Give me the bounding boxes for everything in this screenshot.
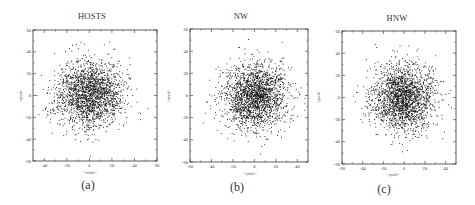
svg-text:-40: -40 — [360, 166, 367, 171]
svg-text:0: 0 — [88, 163, 91, 168]
svg-text:20: 20 — [335, 73, 340, 78]
svg-text:60: 60 — [335, 29, 340, 34]
panel-nw: NW -60-40-2002040-60-40-200204060 <xtalt… — [160, 0, 320, 205]
data-points — [203, 39, 306, 155]
y-axis-label: <ytalt> — [18, 89, 23, 102]
x-axis-label: <xtalt> — [83, 170, 96, 175]
svg-text:20: 20 — [26, 71, 31, 76]
svg-text:0: 0 — [29, 93, 32, 98]
svg-text:20: 20 — [423, 166, 428, 171]
y-axis-label: <xtalt> — [166, 89, 171, 102]
svg-text:-20: -20 — [230, 164, 237, 169]
svg-text:-60: -60 — [182, 160, 189, 165]
svg-text:60: 60 — [26, 28, 31, 33]
data-points — [353, 44, 452, 152]
svg-text:-20: -20 — [182, 115, 189, 120]
svg-text:-60: -60 — [339, 166, 346, 171]
svg-text:20: 20 — [183, 71, 188, 76]
x-axis-label: <ytalt> — [243, 171, 256, 176]
svg-text:40: 40 — [295, 164, 300, 169]
svg-text:40: 40 — [443, 166, 448, 171]
svg-text:0: 0 — [338, 95, 341, 100]
svg-text:-60: -60 — [187, 164, 194, 169]
svg-text:-20: -20 — [380, 166, 387, 171]
svg-text:-40: -40 — [182, 137, 189, 142]
panel-hosts: HOSTS -40-200204060-60-40-200204060 <yta… — [0, 0, 160, 205]
axis-ticks: -40-200204060-60-40-200204060 — [25, 28, 160, 168]
x-axis-label: <ytalt> — [386, 172, 399, 177]
subfigure-label: (b) — [230, 180, 244, 195]
scatter-plot-hosts: -40-200204060-60-40-200204060 — [0, 0, 160, 205]
scatter-plot-nw: -60-40-2002040-60-40-200204060 — [160, 0, 320, 205]
svg-text:40: 40 — [26, 49, 31, 54]
svg-text:40: 40 — [335, 51, 340, 56]
plot-frame — [342, 31, 456, 164]
svg-text:40: 40 — [183, 49, 188, 54]
svg-text:-20: -20 — [334, 117, 341, 122]
axis-ticks: -60-40-2002040-60-40-200204060 — [334, 29, 456, 171]
svg-text:0: 0 — [403, 166, 406, 171]
svg-text:40: 40 — [132, 163, 137, 168]
subfigure-label: (a) — [81, 178, 94, 193]
svg-text:-60: -60 — [25, 159, 32, 164]
svg-text:-20: -20 — [64, 163, 71, 168]
svg-text:-60: -60 — [334, 162, 341, 167]
svg-text:-20: -20 — [25, 115, 32, 120]
y-axis-label: <ytalt> — [316, 90, 321, 103]
svg-text:20: 20 — [274, 164, 279, 169]
svg-text:-40: -40 — [41, 163, 48, 168]
svg-text:-40: -40 — [334, 139, 341, 144]
svg-text:0: 0 — [186, 93, 189, 98]
svg-text:-40: -40 — [25, 137, 32, 142]
svg-text:0: 0 — [253, 164, 256, 169]
svg-text:60: 60 — [183, 27, 188, 32]
subfigure-label: (c) — [377, 182, 390, 197]
panel-hnw: HNW -60-40-2002040-60-40-200204060 <ytal… — [315, 0, 475, 205]
svg-text:20: 20 — [110, 163, 115, 168]
data-points — [37, 42, 149, 157]
svg-text:-40: -40 — [208, 164, 215, 169]
